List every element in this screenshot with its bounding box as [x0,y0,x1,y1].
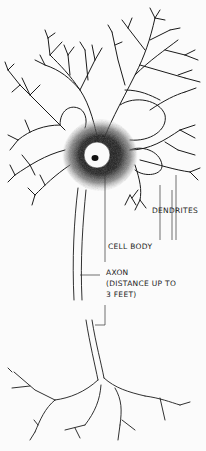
dendrites-label: DENDRITES [152,206,198,216]
axon-distance-label: (DISTANCE UP TO [106,279,176,289]
cell-body-label: CELL BODY [108,242,152,252]
axon [8,188,190,440]
axon-label: AXON [106,268,129,278]
nucleus [84,142,110,168]
nucleolus [92,155,99,161]
axon-feet-label: 3 FEET) [106,290,137,300]
neuron-diagram [0,0,206,451]
